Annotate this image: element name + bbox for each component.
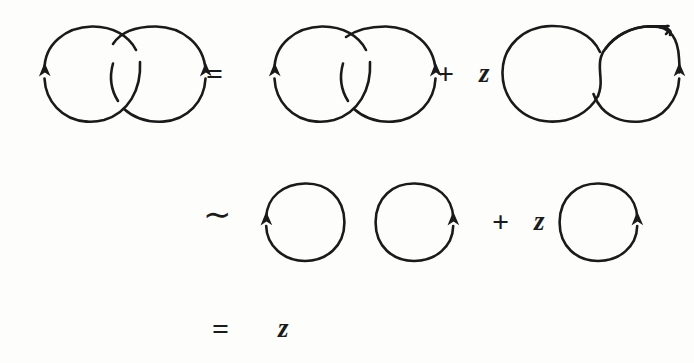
skein-relation-figure: = + z ∼ + z = z: [0, 0, 694, 363]
diagram-hopf-link-crossed: [39, 26, 212, 121]
variable-z-row2: z: [534, 208, 545, 235]
diagram-unknot-single: [560, 183, 644, 261]
operator-plus-row1: +: [437, 59, 454, 89]
orientation-arrow-up-icon: [448, 212, 460, 226]
figure-canvas: [0, 0, 694, 363]
orientation-arrow-up-icon: [39, 63, 51, 77]
orientation-arrow-up-icon: [269, 63, 281, 77]
operator-similar-to-row2: ∼: [203, 198, 231, 232]
operator-plus-row2: +: [492, 207, 509, 237]
diagram-hopf-link-switched: [269, 26, 442, 121]
variable-z-row3: z: [278, 315, 289, 342]
operator-equals-row1: =: [206, 59, 223, 89]
orientation-arrow-up-icon: [632, 212, 644, 226]
operator-equals-row3: =: [212, 314, 229, 344]
orientation-arrow-up-icon: [261, 212, 273, 226]
diagram-unknot-right: [376, 183, 460, 261]
diagram-unknot-left: [261, 183, 345, 261]
variable-z-row1: z: [479, 60, 490, 87]
orientation-arrow-up-icon: [674, 63, 686, 77]
diagram-oriented-smoothing: [502, 26, 685, 122]
